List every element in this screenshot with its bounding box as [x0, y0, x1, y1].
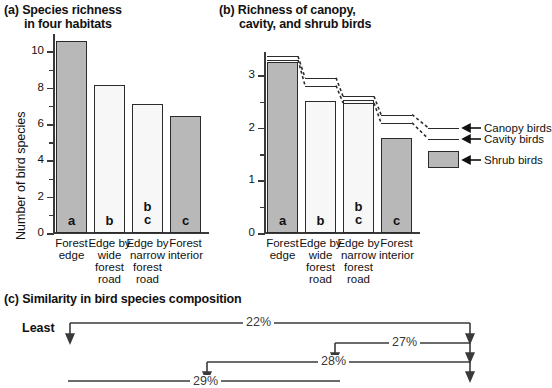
legend-shrub-swatch [428, 151, 459, 168]
panel-b-tick-3 [258, 75, 265, 77]
panel-b-minor-tick-1-5 [260, 154, 265, 156]
panel-b-minor-tick-2-5 [260, 102, 265, 104]
panel-a-tick-label-10: 10 [14, 45, 44, 56]
panel-b-category-forest-interior: Forest interior [369, 237, 424, 261]
legend-canopy-arrow [463, 121, 483, 135]
panel-c-link-label-28: 28% [318, 355, 349, 368]
legend-label-shrub-birds: Shrub birds [484, 154, 543, 166]
panel-a-letter-forest-interior: c [170, 214, 201, 227]
panel-c-least-label: Least [22, 322, 55, 335]
panel-b-canopy-line-edge-narrow-road[interactable] [343, 96, 374, 97]
panel-b-letter-forest-interior: c [381, 214, 412, 227]
panel-b-canopy-line-forest-edge[interactable] [267, 56, 298, 57]
panel-a-tick-label-2: 2 [20, 191, 44, 202]
panel-c-link-label-29: 29% [190, 375, 221, 388]
legend-cavity-line [428, 139, 459, 140]
panel-b-tick-label-2: 2 [234, 122, 255, 133]
panel-b-letter-forest-edge: a [267, 214, 298, 227]
panel-a-tick-label-8: 8 [20, 82, 44, 93]
panel-b-cavity-line-edge-wide-road[interactable] [305, 86, 336, 87]
panel-a-tick-label-0: 0 [20, 227, 44, 238]
panel-b-tick-2 [258, 128, 265, 130]
panel-a-minor-tick-5 [49, 142, 54, 144]
panel-a-tick-8 [47, 88, 54, 90]
panel-a-tick-10 [47, 51, 54, 53]
panel-a-minor-tick-3 [49, 179, 54, 181]
panel-b-tick-0 [258, 233, 265, 235]
panel-a-letter-edge-narrow-road: b c [132, 200, 163, 226]
panel-b-canopy-line-forest-interior[interactable] [381, 115, 412, 116]
panel-a-tick-label-6: 6 [20, 118, 44, 129]
panel-a-bar-edge-wide-road[interactable] [94, 85, 125, 233]
panel-b-minor-tick-0-5 [260, 207, 265, 209]
panel-b-letter-edge-wide-road: b [305, 214, 336, 227]
panel-b-tick-label-0: 0 [234, 227, 255, 238]
panel-b-tick-1 [258, 180, 265, 182]
panel-b-tick-label-1: 1 [234, 174, 255, 185]
panel-b-chart: 0 1 2 3 [232, 28, 528, 290]
panel-c-diagram: Least [0, 305, 528, 383]
panel-b-canopy-line-edge-wide-road[interactable] [305, 78, 336, 79]
panel-a-minor-tick-1 [49, 215, 54, 217]
panel-c-link-label-22: 22% [243, 316, 274, 329]
panel-b-bar-forest-edge[interactable] [267, 62, 298, 233]
panel-a-category-forest-interior: Forest interior [158, 237, 213, 261]
panel-b-cavity-line-edge-narrow-road[interactable] [343, 103, 374, 104]
panel-a-y-axis [53, 34, 55, 234]
panel-c-link-label-27: 27% [389, 336, 420, 349]
panel-a-chart: Number of bird species 0 2 4 6 8 10 a b [0, 28, 215, 290]
panel-a-tick-6 [47, 124, 54, 126]
panel-b-cavity-line-forest-edge[interactable] [267, 60, 298, 61]
panel-a-bar-forest-edge[interactable] [56, 41, 87, 233]
legend-canopy-line [428, 128, 459, 129]
panel-a-minor-tick-7 [49, 106, 54, 108]
panel-a-title: (a) Species richness in four habitats [4, 3, 122, 31]
panel-a-tick-0 [47, 233, 54, 235]
panel-a-y-axis-label: Number of bird species [14, 111, 28, 240]
panel-c-title: (c) Similarity in bird species compositi… [4, 292, 242, 306]
legend-cavity-arrow [463, 132, 483, 146]
legend-label-cavity-birds: Cavity birds [484, 133, 544, 145]
panel-a-minor-tick-9 [49, 70, 54, 72]
panel-a-tick-4 [47, 160, 54, 162]
panel-b-letter-edge-narrow-road: b c [343, 200, 374, 226]
panel-a-tick-label-4: 4 [20, 154, 44, 165]
panel-b-title: (b) Richness of canopy, cavity, and shru… [219, 3, 371, 31]
legend-shrub-arrow [463, 153, 483, 167]
panel-b-cavity-line-forest-interior[interactable] [381, 123, 412, 124]
panel-a-tick-2 [47, 197, 54, 199]
panel-b-tick-label-3: 3 [234, 69, 255, 80]
panel-a-letter-forest-edge: a [56, 214, 87, 227]
panel-a-letter-edge-wide-road: b [94, 214, 125, 227]
